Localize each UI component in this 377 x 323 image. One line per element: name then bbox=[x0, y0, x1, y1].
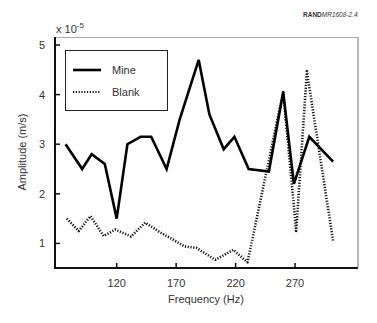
y-tick-label: 3 bbox=[39, 138, 45, 150]
legend-label-blank: Blank bbox=[112, 86, 140, 98]
x-tick-label: 170 bbox=[167, 277, 185, 289]
y-tick-label: 1 bbox=[39, 237, 45, 249]
x-ticks: 120170220270 bbox=[108, 263, 305, 289]
x-tick-label: 270 bbox=[286, 277, 304, 289]
y-ticks: 12345 bbox=[39, 39, 60, 249]
legend-label-mine: Mine bbox=[112, 64, 136, 76]
y-multiplier: x 10-5 bbox=[56, 21, 84, 35]
y-tick-label: 2 bbox=[39, 188, 45, 200]
line-chart: 12345 120170220270 x 10-5 Frequency (Hz)… bbox=[0, 0, 377, 323]
x-axis-title: Frequency (Hz) bbox=[168, 293, 244, 305]
y-axis-title: Amplitude (m/s) bbox=[16, 113, 28, 190]
legend-box bbox=[66, 51, 168, 111]
x-tick-label: 220 bbox=[226, 277, 244, 289]
x-tick-label: 120 bbox=[108, 277, 126, 289]
legend: Mine Blank bbox=[66, 51, 168, 111]
y-tick-label: 4 bbox=[39, 89, 45, 101]
y-tick-label: 5 bbox=[39, 39, 45, 51]
